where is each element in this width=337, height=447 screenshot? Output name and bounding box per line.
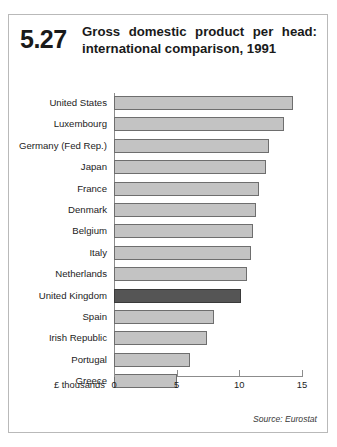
bar-chart: £ thousands United StatesLuxembourgGerma… <box>9 77 329 407</box>
chart-row: Netherlands <box>9 264 329 285</box>
x-axis-tick-label: 0 <box>111 379 116 390</box>
bar <box>114 246 251 260</box>
chart-row: Greece <box>9 371 329 392</box>
bar <box>114 182 259 196</box>
bar <box>114 96 293 110</box>
page-title: Gross domestic product per head: interna… <box>82 24 317 58</box>
category-label: Belgium <box>72 224 107 237</box>
bar <box>114 331 207 345</box>
source-note: Source: Eurostat <box>253 414 317 424</box>
chart-header: 5.27 Gross domestic product per head: in… <box>9 15 327 77</box>
x-axis-tick-label: 15 <box>297 379 307 390</box>
bar <box>114 289 241 303</box>
x-axis-tick <box>177 370 178 377</box>
chart-row: Germany (Fed Rep.) <box>9 136 329 157</box>
chart-row: United Kingdom <box>9 286 329 307</box>
x-axis-tick-label: 5 <box>174 379 179 390</box>
chart-row: Luxembourg <box>9 114 329 135</box>
category-label: Japan <box>81 160 107 173</box>
chart-row: Portugal <box>9 350 329 371</box>
plot-area: £ thousands United StatesLuxembourgGerma… <box>9 77 329 407</box>
category-label: Netherlands <box>55 267 107 280</box>
chart-number: 5.27 <box>20 24 82 52</box>
category-label: United States <box>49 96 107 109</box>
chart-panel: 5.27 Gross domestic product per head: in… <box>8 14 328 433</box>
category-label: France <box>77 182 107 195</box>
x-axis-tick-label: 10 <box>234 379 244 390</box>
category-label: Italy <box>89 246 107 259</box>
x-axis-tick <box>114 370 115 377</box>
chart-row: Italy <box>9 243 329 264</box>
bar <box>114 117 284 131</box>
bar <box>114 374 177 388</box>
category-label: Luxembourg <box>54 117 107 130</box>
bar <box>114 203 256 217</box>
category-label: Greece <box>76 374 107 387</box>
chart-row: Spain <box>9 307 329 328</box>
x-axis-tick <box>302 370 303 377</box>
category-label: Denmark <box>68 203 107 216</box>
bar <box>114 160 266 174</box>
chart-row: Japan <box>9 157 329 178</box>
chart-row: United States <box>9 93 329 114</box>
category-label: United Kingdom <box>39 289 107 302</box>
chart-row: Belgium <box>9 221 329 242</box>
bar <box>114 267 247 281</box>
chart-page: 5.27 Gross domestic product per head: in… <box>0 0 337 447</box>
title-line-1: Gross domestic product per head: <box>82 24 317 41</box>
chart-row: Denmark <box>9 200 329 221</box>
title-line-2: international comparison, 1991 <box>82 41 317 58</box>
chart-row: Irish Republic <box>9 328 329 349</box>
chart-row: France <box>9 179 329 200</box>
bar <box>114 353 190 367</box>
category-label: Portugal <box>71 353 107 366</box>
bar <box>114 310 214 324</box>
x-axis-tick <box>239 370 240 377</box>
bar <box>114 224 253 238</box>
category-label: Germany (Fed Rep.) <box>19 139 107 152</box>
category-label: Spain <box>82 310 107 323</box>
bar <box>114 139 269 153</box>
category-label: Irish Republic <box>49 331 107 344</box>
